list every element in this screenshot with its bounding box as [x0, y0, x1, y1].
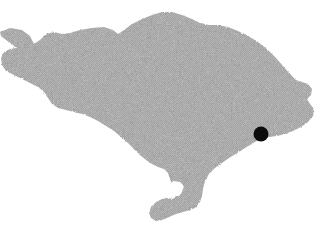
map-figure: [0, 0, 329, 244]
bali-map-svg: [0, 0, 329, 244]
location-dot-icon: [254, 127, 269, 142]
